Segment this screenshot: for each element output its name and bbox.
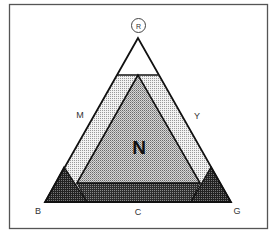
color-triangle-diagram: R N M Y B C G bbox=[0, 0, 273, 235]
label-c: C bbox=[135, 207, 142, 217]
label-m: M bbox=[76, 110, 84, 120]
bottom-dark-band bbox=[77, 183, 200, 202]
label-r: R bbox=[136, 23, 141, 30]
label-g: G bbox=[233, 206, 240, 216]
label-b: B bbox=[35, 206, 41, 216]
label-y: Y bbox=[194, 111, 200, 121]
label-n: N bbox=[132, 137, 146, 158]
